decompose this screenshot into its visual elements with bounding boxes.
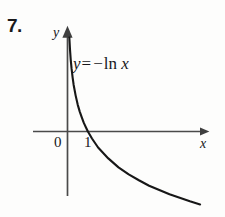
equation-argument: x: [121, 54, 129, 73]
equation-lhs: y: [73, 54, 81, 73]
graph-figure: [0, 0, 225, 217]
y-axis-label: y: [53, 25, 59, 41]
equation-annotation: y=−ln x: [73, 54, 129, 74]
x-axis-label: x: [200, 136, 206, 152]
equation-equals: =: [81, 54, 93, 73]
figure-page: 7. y=−ln x y x 0 1: [0, 0, 225, 217]
equation-ln-function: ln: [104, 54, 117, 73]
origin-tick-label: 0: [54, 134, 62, 151]
x-tick-label-1: 1: [84, 134, 92, 151]
equation-minus-sign: −: [92, 54, 104, 73]
